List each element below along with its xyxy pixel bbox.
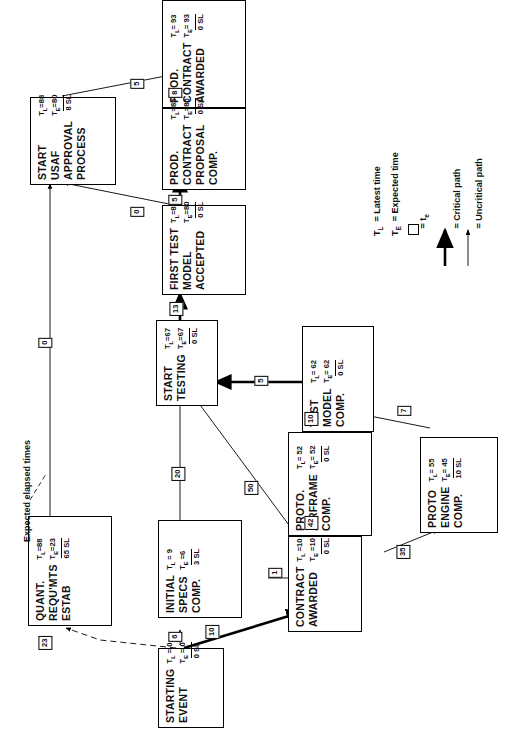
edge-label-awarded-from-usaf: 5: [130, 79, 144, 89]
node-values: TL= 55 TE= 45 10 SL: [426, 458, 463, 481]
node-starting-event[interactable]: STARTING EVENT TL = 0 TE = 0 0 SL: [158, 648, 224, 728]
edge-label-airframe-from-contract: 42: [304, 516, 318, 530]
node-slack: 0 SL: [195, 14, 205, 30]
edge-label-proposal-from-firsttest: 5: [168, 195, 182, 205]
node-values: TL = 9 TE =6 3 SL: [164, 549, 201, 570]
node-values: TL=67 TE=67 0 SL: [162, 328, 199, 349]
node-slack: 0 SL: [191, 642, 201, 658]
node-start-testing[interactable]: START TESTING TL=67 TE=67 0 SL: [156, 320, 218, 406]
node-quant-requmts-estab[interactable]: QUANT. REQU'MTS ESTAB TL=88 TE=23 65 SL: [28, 516, 112, 626]
node-slack: 8 SL: [63, 95, 73, 111]
edge-label-contract-from-start: 10: [205, 625, 219, 639]
legend: TL = Latest time TE = Expected time = te…: [372, 118, 504, 268]
node-prod-contract-proposal-comp[interactable]: PROD. CONTRACT PROPOSAL COMP. TL=85 TE=8…: [162, 108, 246, 190]
edge-label-engine-from-contract: 35: [396, 545, 410, 559]
pert-chart-canvas: PROD. CONTRACT AWARDED TL= 93 TE= 93 0 S…: [0, 0, 511, 730]
node-values: TL= 52 TE= 52 0 SL: [294, 446, 331, 469]
edge-label-usaf-from-firsttest: 0: [130, 207, 144, 217]
node-proto-engine-comp[interactable]: PROTO ENGINE COMP. TL= 55 TE= 45 10 SL: [420, 437, 498, 533]
node-title: START TESTING: [162, 354, 188, 401]
node-values: TL = 0 TE = 0 0 SL: [164, 642, 201, 663]
node-values: TL =10 TE =10 0 SL: [294, 538, 331, 561]
node-values: TL= 62 TE= 62 0 SL: [308, 360, 345, 383]
node-title: CONTRACT AWARDED: [294, 566, 320, 627]
edge-label-usaf-from-quant: 0: [38, 338, 52, 348]
node-slack: 0 SL: [321, 446, 331, 462]
node-title: QUANT. REQU'MTS ESTAB: [34, 564, 73, 621]
edge-label-awarded-from-proposal: 8: [168, 88, 182, 98]
node-title: PROD. CONTRACT PROPOSAL COMP.: [168, 124, 220, 185]
node-slack: 0 SL: [189, 328, 199, 344]
node-values: TL=88 TE=23 65 SL: [34, 538, 71, 559]
node-slack: 65 SL: [61, 538, 71, 558]
node-values: TL= 93 TE= 93 0 SL: [168, 14, 205, 37]
node-title: PROTO ENGINE COMP.: [426, 487, 465, 528]
node-slack: 10 SL: [453, 458, 463, 478]
node-first-test-model-accepted[interactable]: FIRST TEST MODEL ACCEPTED TL=80 TE=80 0 …: [162, 205, 246, 295]
node-contract-awarded[interactable]: CONTRACT AWARDED TL =10 TE =10 0 SL: [288, 536, 362, 632]
node-slack: 0 SL: [195, 202, 205, 218]
edge-label-testmodel-from-engine: 7: [397, 406, 411, 416]
node-slack: 0 SL: [335, 360, 345, 376]
node-values: TL=85 TE=85 0 SL: [168, 98, 205, 119]
node-title: FIRST TEST MODEL ACCEPTED: [168, 228, 207, 290]
node-proto-airframe-comp[interactable]: PROTO. AIRFRAME COMP. TL= 52 TE= 52 0 SL: [288, 432, 372, 536]
node-initial-specs-comp[interactable]: INITIAL SPECS COMP. TL = 9 TE =6 3 SL: [158, 520, 242, 618]
node-slack: 0 SL: [195, 98, 205, 114]
node-title: STARTING EVENT: [164, 669, 190, 724]
expected-elapsed-times-label: Expected elapsed times: [22, 426, 32, 556]
edge-label-testmodel-from-airframe: 10: [304, 412, 318, 426]
edge-label-specs-from-start: 6: [168, 632, 182, 642]
node-title: START USAF APPROVAL PROCESS: [36, 121, 88, 180]
node-slack: 0 SL: [321, 538, 331, 554]
edge-label-starttesting-from-contract: 50: [244, 481, 258, 495]
legend-arrow-icons: [372, 118, 504, 268]
edge-label-quant-from-start: 23: [38, 636, 52, 650]
edge-label-starttesting-from-testmodel: 5: [254, 376, 268, 386]
edge-label-contract-from-specs: 1: [268, 568, 282, 578]
edge-label-starttesting-from-specs: 20: [171, 467, 185, 481]
node-values: TL=88 TE=80 8 SL: [36, 95, 73, 116]
node-title: INITIAL SPECS COMP.: [164, 575, 203, 613]
edge-label-firsttest-from-starttesting: 13: [169, 302, 183, 316]
node-slack: 3 SL: [191, 549, 201, 565]
node-start-usaf-approval-process[interactable]: START USAF APPROVAL PROCESS TL=88 TE=80 …: [30, 97, 116, 185]
